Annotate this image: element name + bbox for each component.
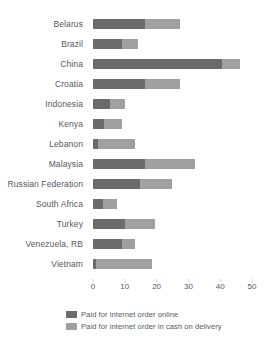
tick-mark — [220, 279, 221, 282]
bar-track — [93, 59, 253, 69]
bar-track — [93, 179, 253, 189]
bar-segment-cash — [145, 159, 195, 169]
category-label-south-africa: South Africa — [0, 194, 88, 214]
bar-segment-online — [93, 59, 222, 69]
bar-segment-cash — [125, 219, 155, 229]
bar-segment-online — [93, 119, 104, 129]
tick-mark — [252, 279, 253, 282]
chart-row: Brazil — [0, 34, 268, 54]
category-label-indonesia: Indonesia — [0, 94, 88, 114]
bar-segment-cash — [98, 139, 135, 149]
bar-segment-online — [93, 159, 145, 169]
chart-legend: Paid for internet order onlinePaid for i… — [66, 309, 266, 333]
x-axis-tick: 10 — [120, 282, 129, 291]
category-label-vietnam: Vietnam — [0, 254, 88, 274]
chart-row: Venezuela, RB — [0, 234, 268, 254]
category-label-malaysia: Malaysia — [0, 154, 88, 174]
bar-track — [93, 39, 253, 49]
chart-row: Turkey — [0, 214, 268, 234]
bar-segment-cash — [122, 39, 138, 49]
tick-mark — [157, 279, 158, 282]
bar-track — [93, 259, 253, 269]
chart-row: Croatia — [0, 74, 268, 94]
chart-row: Kenya — [0, 114, 268, 134]
legend-label: Paid for internet order online — [81, 310, 178, 319]
category-label-russian-federation: Russian Federation — [0, 174, 88, 194]
category-label-brazil: Brazil — [0, 34, 88, 54]
bar-segment-online — [93, 99, 110, 109]
chart-row: South Africa — [0, 194, 268, 214]
x-axis-tick: 30 — [184, 282, 193, 291]
plot-area: BelarusBrazilChinaCroatiaIndonesiaKenyaL… — [0, 14, 268, 282]
bar-segment-online — [93, 79, 145, 89]
chart-row: Belarus — [0, 14, 268, 34]
category-label-lebanon: Lebanon — [0, 134, 88, 154]
x-axis-tick: 0 — [91, 282, 95, 291]
chart-row: Indonesia — [0, 94, 268, 114]
chart-row: Vietnam — [0, 254, 268, 274]
bar-segment-online — [93, 179, 140, 189]
category-label-kenya: Kenya — [0, 114, 88, 134]
bar-segment-cash — [110, 99, 125, 109]
bar-track — [93, 99, 253, 109]
bar-segment-online — [93, 239, 122, 249]
stacked-bar-chart: BelarusBrazilChinaCroatiaIndonesiaKenyaL… — [0, 0, 268, 346]
bar-segment-online — [93, 199, 103, 209]
bar-track — [93, 199, 253, 209]
bar-segment-online — [93, 39, 122, 49]
category-label-belarus: Belarus — [0, 14, 88, 34]
legend-swatch-online — [66, 311, 77, 318]
x-axis-tick: 40 — [216, 282, 225, 291]
x-axis: 01020304050 — [0, 282, 268, 296]
x-axis-tick: 20 — [152, 282, 161, 291]
legend-swatch-cash — [66, 323, 77, 330]
chart-row: China — [0, 54, 268, 74]
category-label-croatia: Croatia — [0, 74, 88, 94]
chart-row: Malaysia — [0, 154, 268, 174]
tick-mark — [125, 279, 126, 282]
bar-segment-cash — [222, 59, 240, 69]
bar-track — [93, 219, 253, 229]
bar-segment-cash — [104, 119, 122, 129]
bar-segment-online — [93, 19, 145, 29]
category-label-venezuela-rb: Venezuela, RB — [0, 234, 88, 254]
bar-segment-cash — [140, 179, 172, 189]
bar-track — [93, 159, 253, 169]
bar-track — [93, 239, 253, 249]
bar-segment-cash — [96, 259, 152, 269]
bar-track — [93, 79, 253, 89]
bar-track — [93, 119, 253, 129]
x-axis-tick: 50 — [248, 282, 257, 291]
legend-item[interactable]: Paid for internet order in cash on deliv… — [66, 321, 266, 331]
tick-mark — [188, 279, 189, 282]
category-label-turkey: Turkey — [0, 214, 88, 234]
tick-mark — [93, 279, 94, 282]
bar-segment-cash — [145, 19, 180, 29]
chart-row: Russian Federation — [0, 174, 268, 194]
bar-segment-cash — [145, 79, 180, 89]
bar-segment-cash — [103, 199, 117, 209]
legend-label: Paid for internet order in cash on deliv… — [81, 322, 222, 331]
chart-row: Lebanon — [0, 134, 268, 154]
bar-track — [93, 19, 253, 29]
legend-item[interactable]: Paid for internet order online — [66, 309, 266, 319]
bar-segment-cash — [122, 239, 135, 249]
category-label-china: China — [0, 54, 88, 74]
bar-track — [93, 139, 253, 149]
bar-segment-online — [93, 219, 125, 229]
